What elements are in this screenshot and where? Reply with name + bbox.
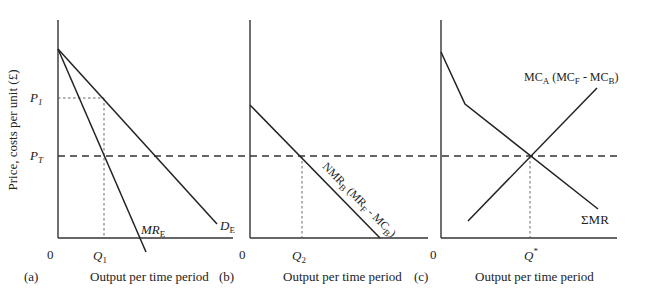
tradable-permits-diagram: Price, costs per unit (£) P1 PT MRE DE 0… [0, 0, 650, 294]
de-label: DE [219, 218, 235, 235]
panel-a-x-axis-label: Output per time period [90, 269, 209, 284]
svg-text:P1: P1 [29, 90, 42, 107]
demand-curve-de [58, 49, 217, 224]
q1-label: Q1 [93, 248, 107, 265]
panel-c-tag: (c) [414, 269, 428, 284]
price-label-pt: PT [29, 148, 44, 165]
price-label-p1: P1 [29, 90, 42, 107]
q2-label: Q2 [292, 248, 306, 265]
nmr-curve [250, 105, 380, 238]
y-axis-label: Price, costs per unit (£) [5, 70, 20, 191]
panel-c: MCA (MCF - MCB) ΣMR 0 Q* (c) Output per … [414, 20, 619, 284]
mc-a-label: MCA (MCF - MCB) [524, 70, 619, 86]
mr-curve-mre [58, 49, 146, 252]
nmr-label: NMRB (MRF - MCB) [318, 160, 398, 241]
panel-b-origin: 0 [239, 247, 246, 262]
panel-b-tag: (b) [219, 269, 234, 284]
mre-label: MRE [140, 222, 166, 239]
panel-a-tag: (a) [24, 269, 38, 284]
panel-a-origin: 0 [47, 247, 54, 262]
qstar-label: Q* [524, 246, 538, 263]
panel-b: NMRB (MRF - MCB) 0 Q2 (b) Output per tim… [219, 20, 428, 284]
panel-c-origin: 0 [430, 247, 437, 262]
panel-b-x-axis-label: Output per time period [283, 269, 402, 284]
panel-a: MRE DE 0 Q1 (a) Output per time period [24, 20, 235, 284]
sum-mr-label: ΣMR [581, 212, 609, 227]
panel-c-x-axis-label: Output per time period [475, 269, 594, 284]
svg-text:PT: PT [29, 148, 44, 165]
mc-a-curve [468, 88, 597, 221]
